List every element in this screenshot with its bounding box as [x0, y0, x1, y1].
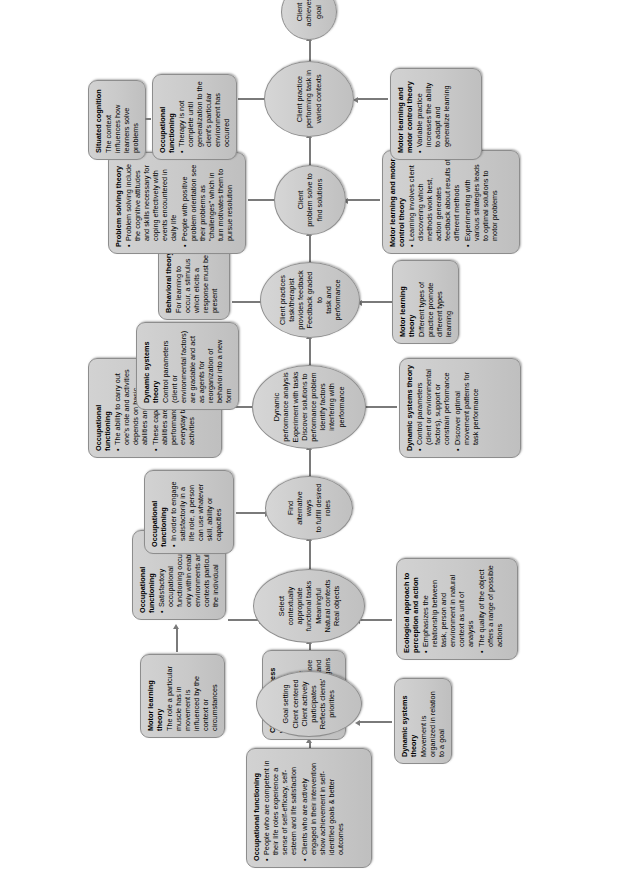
ellipse-line: Client [295, 0, 304, 26]
box-title: Motor learning and motor control theory [388, 157, 406, 247]
box-occupational-functioning-1[interactable]: Occupational functioning People who are … [246, 748, 372, 868]
bullet: Learning involves client discovering whi… [407, 157, 461, 247]
ellipse-client-achieves-goal[interactable]: Client achieves goal [281, 0, 337, 40]
ellipse-text: Select contextually appropriate function… [277, 575, 341, 637]
bullet: Emphasizes the relationship between task… [421, 565, 475, 653]
ellipse-line: Meaningful [314, 575, 323, 637]
box-problem-solving-theory[interactable]: Problem solving theory Problem solving i… [108, 152, 246, 254]
ellipse-line: Client [296, 173, 305, 227]
box-body: The context influences how learners solv… [104, 87, 140, 153]
box-body: Movement is organized in relation to a g… [419, 685, 446, 757]
ellipse-line: task/therapist [287, 268, 296, 332]
flowchart-canvas: Occupational functioning People who are … [0, 0, 620, 876]
bullet: Control parameters (client or environmen… [415, 365, 451, 451]
ellipse-line: to fulfill desired [314, 482, 323, 534]
ellipse-line: varied contexts [314, 70, 323, 128]
bullet-list: Control parameters (client or environmen… [415, 365, 480, 451]
ellipse-line: Feedback graded to [305, 268, 323, 332]
ellipse-dynamic-performance-analysis[interactable]: Dynamic performance analysis Experiment … [252, 365, 366, 449]
bullet-list: Problem solving include the cognitive at… [124, 159, 234, 247]
box-title: Behavioral theory [164, 247, 173, 313]
box-situated-cognition[interactable]: Situated cognition The context influence… [88, 80, 146, 160]
ellipse-line: provides feedback [296, 268, 305, 332]
box-body: The role a particular muscle has in move… [165, 661, 219, 731]
ellipse-line: Identify factors [318, 372, 327, 443]
ellipse-line: performance [337, 372, 346, 443]
box-dynamic-systems-theory-1[interactable]: Dynamic systems theory Movement is organ… [394, 678, 452, 764]
connector-select-to-find [309, 540, 311, 570]
ellipse-line: alternative ways [295, 482, 313, 534]
ellipse-line: Dynamic [272, 372, 281, 443]
connector-mlt1-to-of2 [176, 628, 178, 652]
ellipse-line: Select [277, 575, 286, 637]
box-occupational-functioning-5[interactable]: Occupational functioning Therapy is not … [152, 74, 237, 160]
ellipse-line: Client actively [300, 679, 309, 729]
connector-dpa-to-practice [309, 338, 311, 366]
ellipse-line: achieves [304, 0, 313, 26]
box-title: Problem solving theory [114, 159, 123, 247]
bullet: Experimenting with various strategies le… [463, 157, 499, 247]
ellipse-line: priorities [327, 679, 336, 729]
ellipse-line: Natural contexts [323, 575, 332, 637]
ellipse-line: Goal setting [281, 679, 290, 729]
ellipse-text: Client practices task/therapist provides… [278, 268, 342, 332]
box-title: Ecological approach to perception and ac… [402, 565, 420, 653]
box-body: Different types of practice promote diff… [417, 267, 453, 337]
bullet: Discover optimal movement patterns for t… [453, 365, 480, 451]
box-motor-learning-theory-2[interactable]: Motor learning theory Different types of… [392, 260, 459, 344]
bullet: People with positive problem orientation… [180, 159, 234, 247]
box-body: For learning to occur, a stimulus which … [174, 247, 219, 313]
ellipse-line: Discover solutions to [300, 372, 309, 443]
ellipse-find-alternatives[interactable]: Find alternative ways to fulfill desired… [265, 476, 353, 540]
box-occupational-functioning-3[interactable]: Occupational functioning In order to eng… [144, 470, 234, 554]
ellipse-line: performing task in [304, 70, 313, 128]
box-title: Motor learning theory [398, 267, 416, 337]
ellipse-text: Client problem solve to find solutions [296, 173, 324, 227]
connector-dst2-to-dpa [365, 406, 397, 408]
ellipse-select-tasks[interactable]: Select contextually appropriate function… [253, 569, 365, 643]
connector-varied-to-achieves [309, 40, 311, 62]
ellipse-text: Find alternative ways to fulfill desired… [286, 482, 332, 534]
box-title: Dynamic systems theory [142, 329, 160, 403]
ellipse-line: Reflects clients' [318, 679, 327, 729]
ellipse-client-varied-contexts[interactable]: Client practice performing task in varie… [264, 61, 354, 137]
ellipse-line: performance problem [309, 372, 318, 443]
bullet-list: In order to engage satisfactorily in a l… [169, 477, 223, 547]
box-ecological-approach[interactable]: Ecological approach to perception and ac… [396, 558, 518, 660]
box-motor-learning-motor-control-1[interactable]: Motor learning and motor control theory … [382, 150, 520, 254]
connector-problemsolve-to-varied [309, 137, 311, 165]
bullet: The quality of the object offers a range… [477, 565, 504, 653]
box-title: Dynamic systems theory [405, 365, 414, 451]
box-title: Dynamic systems theory [400, 685, 418, 757]
box-dynamic-systems-theory-2[interactable]: Dynamic systems theory Control parameter… [399, 358, 521, 458]
connector-situated-to-of5 [145, 118, 151, 120]
box-motor-learning-theory-1[interactable]: Motor learning theory The role a particu… [140, 654, 225, 738]
box-dynamic-systems-theory-3[interactable]: Dynamic systems theory Control parameter… [136, 322, 239, 410]
ellipse-line: Experiment with tasks [291, 372, 300, 443]
box-title: Occupational functioning [252, 755, 261, 861]
ellipse-line: contextually appropriate [286, 575, 304, 637]
bullet: In order to engage satisfactorily in a l… [169, 477, 223, 547]
ellipse-line: performance [333, 268, 342, 332]
ellipse-line: find solutions [315, 173, 324, 227]
ellipse-text: Client practice performing task in varie… [295, 70, 323, 128]
box-title: Occupational functioning [94, 365, 112, 451]
arrowhead [173, 624, 179, 629]
connector-mlmc1-to-clientsolve [348, 199, 380, 201]
bullet-list: People who are competent in their life r… [262, 755, 345, 861]
box-title: Occupational functioning [158, 81, 176, 153]
ellipse-line: Client practice [295, 70, 304, 128]
box-motor-learning-motor-control-2[interactable]: Motor learning and motor control theory … [390, 68, 482, 160]
connector-mlmc2-to-varied [358, 98, 388, 100]
ellipse-line: goal [314, 0, 323, 26]
connector-dst1-to-goal [360, 721, 392, 723]
connector-of5-to-varied [238, 98, 266, 100]
arrowhead [355, 720, 360, 726]
box-title: Occupational functioning [150, 477, 168, 547]
ellipse-client-practices[interactable]: Client practices task/therapist provides… [260, 262, 360, 338]
ellipse-client-problem-solve[interactable]: Client problem solve to find solutions [274, 165, 346, 235]
ellipse-goal-setting[interactable]: Goal setting Client centered Client acti… [256, 671, 362, 737]
connector-of2-to-select [228, 619, 260, 621]
ellipse-line: Real objects [332, 575, 341, 637]
ellipse-line: interfering with [327, 372, 336, 443]
